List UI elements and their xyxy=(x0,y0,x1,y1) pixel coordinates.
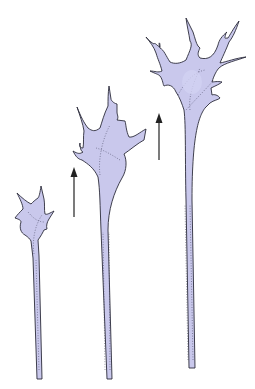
growth-cone-stage-3 xyxy=(146,18,246,368)
growth-cone-stage-1 xyxy=(15,186,54,379)
growth-cone-diagram xyxy=(0,0,255,389)
growth-direction-arrow-1 xyxy=(71,167,78,217)
growth-direction-arrow-2 xyxy=(156,113,163,160)
growth-cone-stage-2 xyxy=(73,86,146,379)
